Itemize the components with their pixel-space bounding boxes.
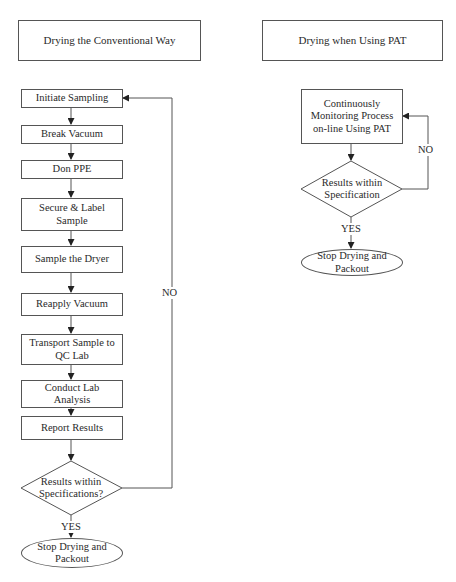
step-reapply-vacuum: Reapply Vacuum [21, 293, 123, 316]
step-conduct-lab-analysis: Conduct Lab Analysis [21, 380, 123, 408]
end-stop-drying-packout-right: Stop Drying and Packout [301, 249, 403, 276]
step-secure-label-sample: Secure & Label Sample [21, 198, 123, 231]
step-report-results: Report Results [21, 416, 123, 440]
step-transport-sample: Transport Sample to QC Lab [21, 334, 123, 365]
yes-label-left: YES [61, 521, 81, 533]
yes-label-right: YES [341, 223, 361, 235]
step-don-ppe: Don PPE [21, 160, 123, 179]
header-pat: Drying when Using PAT [262, 20, 443, 61]
decision-results-within-specification: Results within Specification [318, 175, 386, 203]
no-label-left: NO [162, 287, 177, 299]
decision-results-within-specifications: Results within Specifications? [36, 474, 106, 502]
end-stop-drying-packout-left: Stop Drying and Packout [21, 538, 123, 568]
header-conventional: Drying the Conventional Way [18, 20, 201, 61]
step-continuous-monitoring-pat: Continuously Monitoring Process on-line … [301, 89, 403, 144]
step-break-vacuum: Break Vacuum [21, 125, 123, 144]
step-sample-dryer: Sample the Dryer [21, 246, 123, 273]
no-label-right: NO [418, 144, 433, 156]
step-initiate-sampling: Initiate Sampling [21, 89, 123, 108]
